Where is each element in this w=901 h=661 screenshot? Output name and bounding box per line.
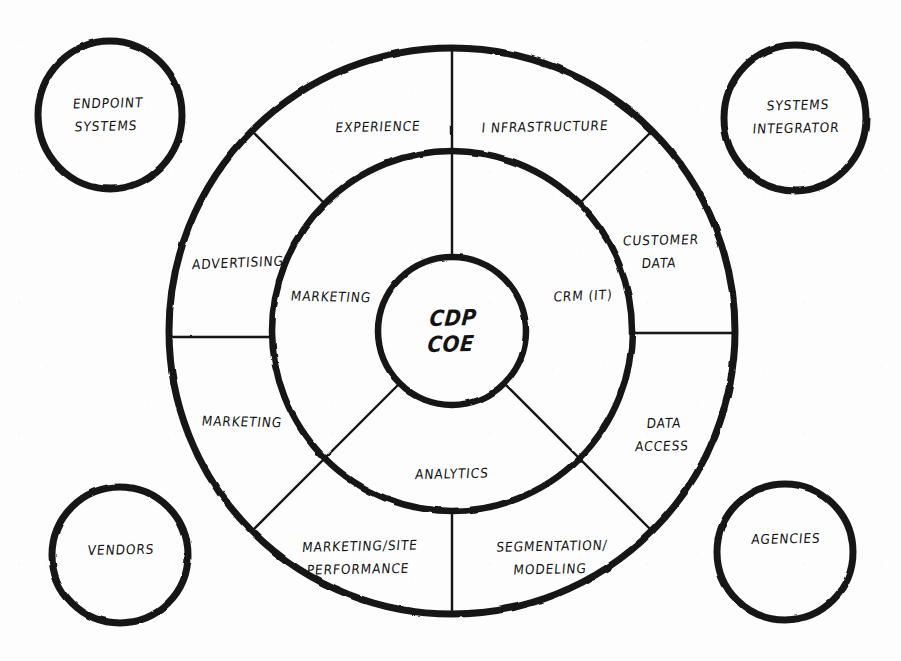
diagram-canvas: CDPCOE EXPERIENCE I NFRASTRUCTURE CRM (I…	[0, 0, 901, 661]
divider-upper-left-diagonal	[252, 131, 325, 204]
diagram-drawing	[0, 0, 901, 661]
divider-upper-right-diagonal	[579, 131, 652, 204]
satellite-vendors	[52, 487, 188, 623]
satellite-endpoint-systems	[38, 41, 182, 189]
divider-lower-right-diagonal	[504, 383, 652, 531]
satellite-agencies	[717, 484, 853, 620]
divider-lower-left-diagonal	[252, 383, 400, 531]
satellite-systems-integrator	[724, 45, 866, 191]
